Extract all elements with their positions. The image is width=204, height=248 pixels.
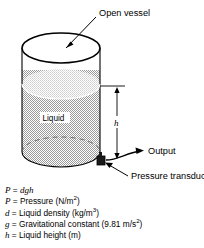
height-arrowhead-up [114,87,119,93]
definition-equals: = [13,196,18,206]
definition-text: Liquid density (kg/m [19,208,93,218]
equation-expression: dgh [20,185,34,195]
transducer-label: Pressure transducer [131,171,204,181]
vessel-top-opening [22,33,100,63]
legend-equation: P = dgh [5,185,201,196]
pressure-vessel-diagram: Liquid Open vessel h Output Pressure tra… [0,0,204,248]
definition-symbol: h [5,230,10,240]
definition-equals: = [12,230,17,240]
transducer-arrowhead [105,163,113,169]
height-label: h [114,118,119,128]
definition-text-after: ) [77,196,80,206]
liquid-label: Liquid [43,114,65,123]
equation-equals: = [13,185,18,195]
equation-symbol: P [5,185,11,195]
open-vessel-label: Open vessel [99,8,150,18]
legend-definition-gravity: g = Gravitational constant (9.81 m/s2) [5,219,201,230]
definition-symbol: g [5,219,10,229]
pressure-transducer-stem [99,152,102,156]
output-label: Output [148,146,176,156]
definition-symbol: P [5,196,11,206]
definition-text-after: ) [140,219,143,229]
output-leader-line [106,151,140,160]
definition-text: Pressure (N/m [20,196,73,206]
formula-legend: P = dgh P = Pressure (N/m2) d = Liquid d… [5,185,201,241]
legend-definition-density: d = Liquid density (kg/m3) [5,208,201,219]
pressure-transducer-body [97,156,105,165]
definition-equals: = [12,208,17,218]
output-arrowhead [136,148,145,155]
definition-text: Gravitational constant (9.81 m/s [19,219,136,229]
definition-text-after: ) [96,208,99,218]
definition-text: Liquid height (m) [19,230,81,240]
legend-definition-pressure: P = Pressure (N/m2) [5,196,201,207]
definition-symbol: d [5,208,10,218]
legend-definition-height: h = Liquid height (m) [5,230,201,241]
definition-equals: = [12,219,17,229]
